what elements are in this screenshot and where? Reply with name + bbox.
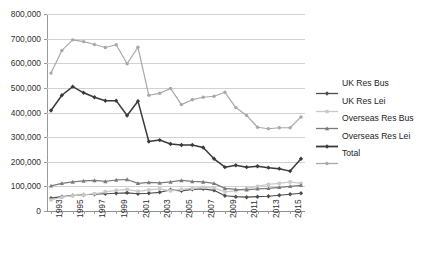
data-point [125,188,128,191]
x-axis-label: 2005 [185,199,193,218]
data-point [169,87,172,90]
legend-item-uk-res-bus[interactable]: UK Res Bus [316,78,424,96]
legend-label: Total [342,148,360,159]
series-line [51,182,301,200]
data-point [266,165,270,169]
x-axis-label: 2001 [142,199,150,218]
data-point [147,139,151,143]
x-axis-tick [181,211,182,214]
data-point [245,195,249,199]
data-point [115,189,118,192]
x-axis-tick [236,211,237,214]
data-point [245,165,249,169]
data-point [191,98,194,101]
y-axis-tick [44,39,47,40]
x-axis-tick [214,211,215,214]
data-point [125,62,128,65]
y-axis-label: 400,000 [0,109,41,117]
x-axis-tick [94,211,95,214]
x-axis-label: 2007 [207,199,215,218]
data-point [82,193,85,196]
x-axis-tick [84,211,85,214]
legend-label: UK Res Bus [342,78,389,89]
data-point [288,126,291,129]
data-point [212,95,215,98]
legend-label: Overseas Res Bus [342,113,414,124]
x-axis-tick [62,211,63,214]
x-axis-tick [301,211,302,214]
legend-item-uk-res-lei[interactable]: UK Res Lei [316,96,424,114]
x-axis-tick [51,211,52,214]
legend-swatch [316,153,338,160]
chart-legend: UK Res BusUK Res LeiOverseas Res BusOver… [316,78,424,166]
data-point [223,194,227,198]
data-point [147,94,150,97]
legend-item-overseas-res-bus[interactable]: Overseas Res Bus [316,113,424,131]
data-point [71,38,74,41]
data-point [245,114,248,117]
data-point [136,46,139,49]
y-axis-tick [44,88,47,89]
legend-item-overseas-res-lei[interactable]: Overseas Res Lei [316,131,424,149]
x-axis-tick [138,211,139,214]
data-point [201,186,204,189]
data-point [147,191,151,195]
data-point [49,198,52,201]
x-axis-label: 1997 [98,199,106,218]
data-point [158,92,161,95]
data-point [147,188,150,191]
data-point [299,191,303,195]
legend-swatch [316,136,338,143]
data-point [180,103,183,106]
series-line [51,179,301,189]
data-point [256,126,259,129]
data-point [190,143,194,147]
data-point [325,162,328,165]
data-point [278,182,281,185]
y-axis-label: 700,000 [0,35,41,43]
y-axis-tick [44,162,47,163]
data-point [277,166,281,170]
series-lines [47,14,305,211]
y-axis-label: 500,000 [0,84,41,92]
x-axis-label: 1999 [120,199,128,218]
data-point [277,193,281,197]
x-axis-tick [116,211,117,214]
x-axis-tick [171,211,172,214]
x-axis-label: 2003 [163,199,171,218]
data-point [234,106,237,109]
legend-swatch [316,101,338,108]
data-point [169,189,172,192]
data-point [49,71,52,74]
data-point [103,98,107,102]
x-axis-label: 2011 [250,200,258,218]
data-point [158,190,162,194]
data-point [255,164,259,168]
x-axis-label: 1993 [55,199,63,218]
data-point [60,49,63,52]
data-point [104,46,107,49]
series-uk-res-lei [49,180,302,201]
data-point [223,91,226,94]
chart-container: 0100,000200,000300,000400,000500,000600,… [0,0,427,253]
x-axis-tick [192,211,193,214]
legend-item-total[interactable]: Total [316,148,424,166]
data-point [93,43,96,46]
x-axis-tick [268,211,269,214]
series-line [51,40,301,129]
data-point [267,183,270,186]
y-axis-label: 600,000 [0,59,41,67]
x-axis-label: 2015 [294,199,302,218]
x-axis-tick [225,211,226,214]
gridline [47,211,305,212]
y-axis-tick [44,211,47,212]
y-axis-label: 800,000 [0,10,41,18]
data-point [266,194,270,198]
x-axis-tick [203,211,204,214]
legend-label: UK Res Lei [342,96,385,107]
y-axis-tick [44,137,47,138]
data-point [115,43,118,46]
data-point [191,187,194,190]
data-point [180,188,183,191]
legend-swatch [316,118,338,125]
